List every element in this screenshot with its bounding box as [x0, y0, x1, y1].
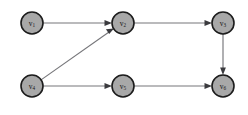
node-v3[interactable]: v3: [212, 12, 234, 34]
edge-layer: [41, 20, 226, 89]
edge-v2-v3-arrowhead: [205, 20, 213, 26]
node-layer: v1 v2 v3 v4 v5 v6: [21, 12, 234, 97]
edge-v3-v6-arrowhead: [220, 68, 226, 76]
edge-v3-v6: [220, 34, 226, 75]
edge-v2-v3: [134, 20, 212, 26]
node-v1[interactable]: v1: [21, 12, 43, 34]
node-v4[interactable]: v4: [21, 75, 43, 97]
edge-v4-v5-arrowhead: [105, 83, 113, 89]
edge-v4-v2: [41, 29, 114, 80]
node-v2[interactable]: v2: [112, 12, 134, 34]
node-v5[interactable]: v5: [112, 75, 134, 97]
edge-v1-v2-arrowhead: [105, 20, 113, 26]
edge-v5-v6: [134, 83, 212, 89]
directed-graph-figure: v1 v2 v3 v4 v5 v6: [0, 0, 248, 115]
node-v6[interactable]: v6: [212, 75, 234, 97]
graph-canvas: v1 v2 v3 v4 v5 v6: [0, 0, 248, 115]
edge-v1-v2: [43, 20, 112, 26]
edge-v4-v2-line: [41, 31, 110, 79]
edge-v4-v5: [43, 83, 112, 89]
edge-v5-v6-arrowhead: [205, 83, 213, 89]
